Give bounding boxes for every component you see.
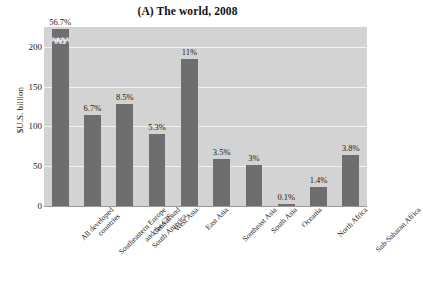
y-axis-tick-label: 150 bbox=[12, 82, 42, 92]
bar[interactable] bbox=[84, 115, 101, 206]
bar-slot: 11% bbox=[181, 27, 198, 206]
x-axis-category-label: All developedcountries bbox=[79, 206, 121, 248]
bar-slot: 0.1% bbox=[278, 27, 295, 206]
chart-title: (A) The world, 2008 bbox=[0, 5, 375, 17]
bar-slot: 3.8% bbox=[342, 27, 359, 206]
bar[interactable] bbox=[181, 59, 198, 206]
bar-value-label: 11% bbox=[182, 47, 197, 57]
bar[interactable] bbox=[149, 134, 166, 206]
axis-break-marker bbox=[51, 30, 70, 37]
y-axis-tick-label: 50 bbox=[12, 161, 42, 171]
x-axis-category-label: Oceania bbox=[300, 206, 324, 230]
x-axis-category-label: North Africa bbox=[336, 206, 369, 239]
bar-value-label: 3.5% bbox=[213, 147, 231, 157]
bar-slot: 8.5% bbox=[116, 27, 133, 206]
bar-value-label: 8.5% bbox=[116, 92, 134, 102]
bar[interactable] bbox=[310, 187, 327, 206]
x-axis-category-label: East Asia bbox=[204, 206, 230, 232]
bar[interactable] bbox=[342, 155, 359, 206]
bar-value-label: 1.4% bbox=[310, 175, 328, 185]
bar-slot: 6.7% bbox=[84, 27, 101, 206]
bar-value-label: 5.3% bbox=[148, 122, 166, 132]
bar-slot: 3% bbox=[246, 27, 263, 206]
bar-series: 56.7%9626.7%8.5%5.3%11%3.5%3%0.1%1.4%3.8… bbox=[44, 27, 367, 206]
bar[interactable] bbox=[116, 104, 133, 206]
plot-area: 56.7%9626.7%8.5%5.3%11%3.5%3%0.1%1.4%3.8… bbox=[44, 27, 367, 206]
bar-value-label: 6.7% bbox=[84, 103, 102, 113]
x-axis-category-label: Sub-Saharan Africa bbox=[375, 206, 423, 254]
bar[interactable] bbox=[52, 29, 69, 206]
bar-slot: 3.5% bbox=[213, 27, 230, 206]
x-axis-label-layer: All developedcountriesSoutheastern Europ… bbox=[0, 206, 375, 289]
bar-absolute-value-label: 962 bbox=[55, 37, 66, 46]
bar[interactable] bbox=[213, 159, 230, 206]
bar-value-label: 3% bbox=[248, 153, 259, 163]
bar-value-label: 3.8% bbox=[342, 143, 360, 153]
y-axis-tick-label: 100 bbox=[12, 121, 42, 131]
bar[interactable] bbox=[246, 165, 263, 206]
y-axis-tick-label: 200 bbox=[12, 42, 42, 52]
bar-slot: 56.7%962 bbox=[52, 27, 69, 206]
bar-value-label: 56.7% bbox=[49, 17, 71, 27]
bar-slot: 5.3% bbox=[149, 27, 166, 206]
bar-slot: 1.4% bbox=[310, 27, 327, 206]
bar-value-label: 0.1% bbox=[277, 192, 295, 202]
